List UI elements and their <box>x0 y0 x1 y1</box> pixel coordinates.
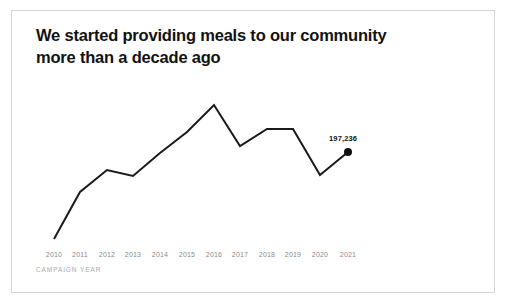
x-tick-2011: 2011 <box>72 251 88 258</box>
x-tick-2021: 2021 <box>340 251 356 258</box>
x-tick-2020: 2020 <box>312 251 328 258</box>
x-axis-ticks: 2010201120122013201420152016201720182019… <box>36 251 476 265</box>
x-tick-2019: 2019 <box>285 251 301 258</box>
x-tick-2018: 2018 <box>259 251 275 258</box>
x-tick-2016: 2016 <box>206 251 222 258</box>
x-tick-2015: 2015 <box>179 251 195 258</box>
chart-card: We started providing meals to our commun… <box>11 10 495 293</box>
x-axis-caption: CAMPAIGN YEAR <box>36 266 101 273</box>
endpoint-marker-dot <box>344 148 352 156</box>
endpoint-value-label: 197,236 <box>329 134 357 143</box>
meals-series-line <box>54 105 348 239</box>
x-tick-2012: 2012 <box>99 251 115 258</box>
x-tick-2017: 2017 <box>232 251 248 258</box>
x-tick-2010: 2010 <box>46 251 62 258</box>
x-tick-2013: 2013 <box>125 251 141 258</box>
x-tick-2014: 2014 <box>152 251 168 258</box>
